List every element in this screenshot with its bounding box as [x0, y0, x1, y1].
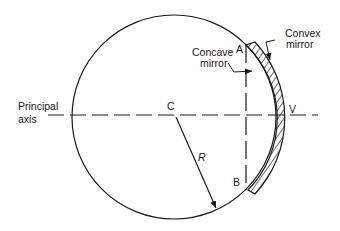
radius-label: R	[198, 151, 206, 163]
mirror-shell	[246, 42, 285, 194]
convex-mirror-label-line2: mirror	[286, 38, 314, 50]
point-a-label: A	[236, 43, 243, 55]
principal-axis-label-line1: Principal	[18, 100, 58, 112]
center-label: C	[167, 100, 175, 112]
vertex-label: V	[289, 103, 296, 115]
concave-mirror-label-line2: mirror	[200, 57, 228, 69]
concave-leader-arrow	[228, 63, 252, 72]
principal-axis-label-line2: axis	[18, 113, 37, 125]
mirror-diagram: Principal axis C V R A B Concave mirror …	[0, 0, 340, 231]
point-b-label: B	[233, 176, 240, 188]
radius-arrow	[176, 117, 216, 208]
